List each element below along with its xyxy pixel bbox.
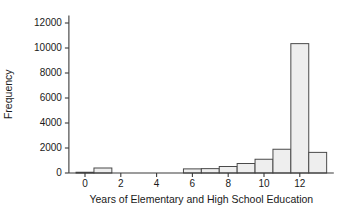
x-tick-label: 4 (154, 178, 160, 189)
histogram-bar (291, 44, 309, 173)
y-tick-label: 8000 (40, 67, 63, 78)
histogram-bar (94, 168, 112, 173)
y-tick-label: 2000 (40, 142, 63, 153)
x-tick-label: 6 (190, 178, 196, 189)
x-tick-label: 12 (294, 178, 306, 189)
x-tick-label: 8 (225, 178, 231, 189)
y-tick-label: 6000 (40, 92, 63, 103)
x-tick-label: 2 (118, 178, 124, 189)
y-tick-label: 12000 (34, 17, 62, 28)
histogram-bar (309, 152, 327, 173)
histogram-figure: 020004000600080001000012000 024681012 Ye… (0, 0, 344, 216)
histogram-bar (183, 169, 201, 173)
histogram-bar (201, 169, 219, 173)
histogram-bar (255, 159, 273, 173)
bars-group (76, 44, 327, 173)
histogram-bar (273, 149, 291, 173)
histogram-bar (219, 167, 237, 174)
y-tick-label: 0 (56, 167, 62, 178)
x-tick-label: 0 (82, 178, 88, 189)
y-axis-title: Frequency (2, 69, 14, 119)
y-tick-label: 4000 (40, 117, 63, 128)
histogram-canvas: 020004000600080001000012000 024681012 Ye… (0, 0, 344, 216)
histogram-bar (237, 164, 255, 174)
x-axis-title: Years of Elementary and High School Educ… (89, 193, 313, 205)
x-axis-ticks: 024681012 (82, 173, 306, 189)
y-axis-ticks: 020004000600080001000012000 (34, 17, 69, 178)
x-tick-label: 10 (258, 178, 270, 189)
y-tick-label: 10000 (34, 42, 62, 53)
